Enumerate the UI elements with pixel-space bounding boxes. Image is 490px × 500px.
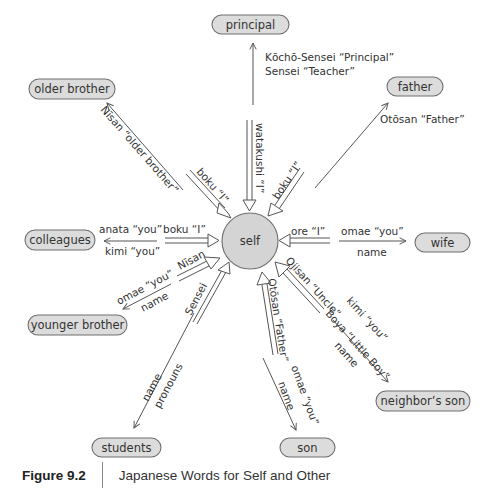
node-son-label: son (297, 441, 317, 455)
node-colleagues-label: colleagues (29, 233, 91, 247)
node-colleagues: colleagues (25, 230, 95, 250)
figure-number: Figure 9.2 (22, 468, 102, 483)
node-neighbors-son: neighbor’s son (376, 391, 470, 411)
label-wife-ore: ore “I” (291, 225, 325, 237)
label-wife-name: name (357, 246, 387, 258)
label-principal-sensei: Sensei “Teacher” (265, 65, 355, 77)
node-younger-brother: younger brother (28, 315, 127, 335)
label-son-name: name (276, 380, 297, 412)
label-older-brother-boku: boku “I” (194, 165, 231, 205)
node-wife: wife (415, 233, 470, 252)
label-son-otosan: Otōsan “Father” (266, 277, 291, 363)
label-neighbors-son-boya: Boya “Little Boy” (324, 307, 393, 382)
label-students-sensei: Sensei (182, 281, 209, 317)
node-father-label: father (398, 80, 433, 94)
node-wife-label: wife (431, 236, 455, 250)
node-principal: principal (212, 15, 289, 34)
figure-caption: Figure 9.2 Japanese Words for Self and O… (22, 463, 330, 487)
node-self-label: self (240, 234, 261, 248)
label-colleagues-anata: anata “you” (99, 223, 162, 235)
double-arrow-from-colleagues (165, 234, 219, 247)
node-students: students (92, 438, 161, 457)
label-older-brother-nisan: Nīsan “older brother” (98, 103, 181, 195)
self-other-diagram: principal older brother father colleague… (0, 0, 490, 500)
node-principal-label: principal (226, 18, 276, 32)
node-older-brother: older brother (29, 79, 115, 99)
arrow-to-students (134, 313, 194, 428)
node-younger-brother-label: younger brother (31, 318, 125, 332)
node-self: self (222, 213, 278, 269)
node-neighbors-son-label: neighbor’s son (381, 394, 466, 408)
label-colleagues-boku: boku “I” (163, 223, 206, 235)
label-colleagues-kimi: kimi “you” (105, 245, 160, 257)
node-son: son (280, 438, 335, 457)
label-younger-brother-nisan: Nīsan (175, 247, 207, 271)
label-principal-watakushi: watakushi “I” (254, 123, 266, 193)
label-father-otosan: Otōsan “Father” (380, 113, 465, 125)
caption-divider (102, 462, 103, 488)
figure-title: Japanese Words for Self and Other (119, 468, 330, 483)
label-principal-kocho-sensei: Kōchō-Sensei “Principal” (265, 51, 394, 63)
node-older-brother-label: older brother (34, 82, 110, 96)
node-father: father (387, 77, 443, 96)
label-wife-omae: omae “you” (341, 225, 404, 237)
arrow-to-father (315, 103, 388, 188)
node-students-label: students (102, 441, 152, 455)
